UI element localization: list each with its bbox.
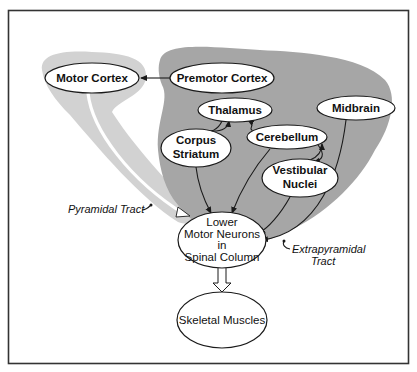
node-label: Motor Cortex: [56, 72, 128, 84]
node-label-line1: Corpus: [176, 134, 216, 146]
tract-label: Pyramidal Tract: [68, 203, 145, 215]
node-label-line2: Nuclei: [283, 178, 318, 190]
tract-label-line1: Extrapyramidal: [292, 243, 366, 255]
node-label-line4: Spinal Column: [185, 251, 260, 263]
node-premotor-cortex: Premotor Cortex: [170, 63, 274, 93]
tract-label-line2: Tract: [311, 255, 336, 267]
node-lower-motor-neurons: Lower Motor Neurons in Spinal Column: [178, 212, 266, 268]
node-vestibular-nuclei: Vestibular Nuclei: [262, 159, 338, 197]
node-corpus-striatum: Corpus Striatum: [161, 129, 231, 167]
node-label-line1: Vestibular: [273, 164, 328, 176]
node-motor-cortex: Motor Cortex: [45, 63, 139, 93]
node-cerebellum: Cerebellum: [247, 125, 327, 149]
node-label: Skeletal Muscles: [179, 314, 266, 326]
node-label-line3: in: [218, 239, 227, 251]
leader-dot: [283, 240, 286, 243]
node-thalamus: Thalamus: [198, 98, 272, 122]
node-midbrain: Midbrain: [317, 96, 395, 120]
node-label-line2: Striatum: [173, 148, 220, 160]
node-label-line1: Lower: [206, 216, 237, 228]
leader-dot: [150, 204, 153, 207]
node-label: Thalamus: [208, 104, 262, 116]
motor-pathways-diagram: Motor Cortex Premotor Cortex Thalamus Co…: [0, 0, 417, 372]
pyramidal-tract-label: Pyramidal Tract: [68, 203, 153, 215]
node-label: Midbrain: [332, 102, 380, 114]
node-skeletal-muscles: Skeletal Muscles: [177, 292, 267, 348]
node-label: Premotor Cortex: [177, 72, 268, 84]
node-label: Cerebellum: [256, 131, 319, 143]
